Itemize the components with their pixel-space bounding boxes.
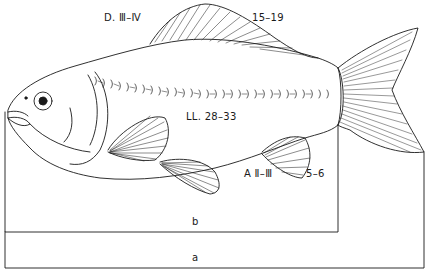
fish-diagram: D. Ⅲ–Ⅳ 15–19 LL. 28–33 A Ⅱ–Ⅲ 5–6 b a [0,0,427,274]
mouth [8,117,30,125]
fish-body-outline [8,39,341,179]
anal-fin-rays-label: A Ⅱ–Ⅲ [244,169,272,179]
standard-length-label: b [192,217,199,227]
dorsal-fin-count-label: 15–19 [252,13,284,23]
dorsal-fin-rays-label: D. Ⅲ–Ⅳ [104,13,141,23]
bracket-b [5,112,338,232]
operculum [70,72,108,164]
lateral-line-label: LL. 28–33 [186,112,237,122]
dorsal-fin [150,4,318,58]
anal-fin-count-label: 5–6 [306,169,325,179]
nostril [25,97,27,99]
measurement-brackets [5,112,424,268]
bracket-a [5,152,424,268]
lateral-line-scales [95,77,329,98]
fish-illustration [0,0,427,274]
total-length-label: a [192,253,198,263]
